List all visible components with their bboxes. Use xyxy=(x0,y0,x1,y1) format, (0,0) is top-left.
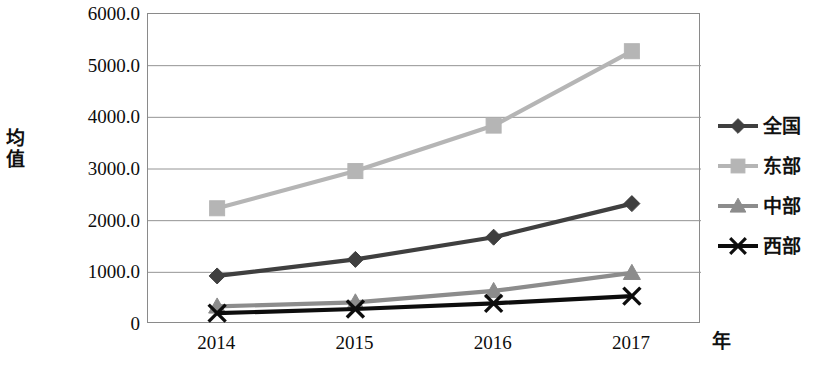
plot-area xyxy=(147,13,700,323)
x-axis-tick-label: 2016 xyxy=(474,332,512,354)
series-0 xyxy=(209,196,640,284)
legend-item-全国[interactable]: 全国 xyxy=(716,112,828,140)
x-axis-title: 年 xyxy=(712,330,731,352)
data-point-marker-square xyxy=(624,44,639,59)
y-axis-tick-label: 3000.0 xyxy=(32,159,140,178)
legend-item-中部[interactable]: 中部 xyxy=(716,192,828,220)
y-axis-tick-label: 6000.0 xyxy=(32,4,140,23)
data-point-marker-diamond xyxy=(731,119,746,134)
series-line xyxy=(217,204,632,276)
data-point-marker-diamond xyxy=(624,196,640,212)
legend-marker-icon xyxy=(716,115,760,137)
data-point-marker-diamond xyxy=(486,229,502,245)
data-point-marker-diamond xyxy=(347,251,363,267)
data-point-marker-square xyxy=(731,159,745,173)
data-point-marker-square xyxy=(486,118,501,133)
y-axis-tick-label: 1000.0 xyxy=(32,262,140,281)
legend-item-label: 东部 xyxy=(763,156,801,177)
y-axis-tick-label: 0 xyxy=(32,314,140,333)
legend-item-label: 中部 xyxy=(763,196,801,217)
y-axis-tick-labels: 01000.02000.03000.04000.05000.06000.0 xyxy=(30,0,140,368)
legend-item-label: 全国 xyxy=(763,116,801,137)
y-axis-title: 均值 xyxy=(2,128,28,170)
series-canvas xyxy=(148,14,701,324)
data-point-marker-square xyxy=(210,201,225,216)
data-point-marker-diamond xyxy=(209,268,225,284)
y-axis-tick-label: 2000.0 xyxy=(32,211,140,230)
y-axis-tick-label: 4000.0 xyxy=(32,107,140,126)
data-point-marker-square xyxy=(348,164,363,179)
legend-item-label: 西部 xyxy=(763,236,801,257)
legend-marker-icon xyxy=(716,235,760,257)
line-chart: 均值 01000.02000.03000.04000.05000.06000.0… xyxy=(0,0,831,368)
series-1 xyxy=(210,44,640,216)
x-axis-tick-label: 2015 xyxy=(335,332,373,354)
series-line xyxy=(217,51,632,208)
legend-marker-icon xyxy=(716,155,760,177)
legend-item-西部[interactable]: 西部 xyxy=(716,232,828,260)
x-axis-tick-labels: 2014201520162017 xyxy=(147,332,700,360)
y-axis-tick-label: 5000.0 xyxy=(32,56,140,75)
legend-marker-icon xyxy=(716,195,760,217)
x-axis-tick-label: 2017 xyxy=(612,332,650,354)
x-axis-tick-label: 2014 xyxy=(197,332,235,354)
legend-item-东部[interactable]: 东部 xyxy=(716,152,828,180)
chart-legend: 全国东部中部西部 xyxy=(716,112,828,272)
